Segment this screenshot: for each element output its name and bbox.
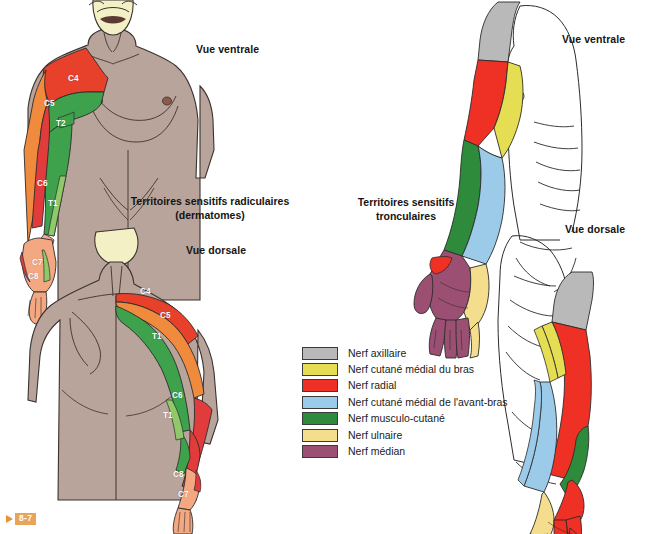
legend-label-nerf-median: Nerf médian [348,446,405,457]
dermatome-code-c8-dorsal: C8 [173,470,183,479]
legend-row: Nerf cutané médial de l'avant-bras [302,394,542,410]
legend-swatch-nerf-axillaire [302,347,338,360]
dermatome-code-t1b-dorsal: T1 [163,411,173,420]
legend-swatch-nerf-cutane-medial-de-lavant-bras [302,396,338,409]
nerve-legend: Nerf axillaire Nerf cutané médial du bra… [302,345,542,460]
legend-label-nerf-cutane-medial-de-lavant-bras: Nerf cutané médial de l'avant-bras [348,397,508,408]
legend-label-nerf-musculo-cutane: Nerf musculo-cutané [348,413,445,424]
right-block-title-line2: tronculaires [336,210,476,224]
legend-row: Nerf ulnaire [302,427,542,443]
legend-row: Nerf radial [302,378,542,394]
view-label-left-dorsal: Vue dorsale [186,244,246,256]
legend-label-nerf-axillaire: Nerf axillaire [348,348,406,359]
legend-row: Nerf médian [302,443,542,459]
legend-swatch-nerf-cutane-medial-du-bras [302,363,338,376]
view-label-left-ventral: Vue ventrale [196,43,259,55]
dermatome-code-c7-dorsal: C7 [178,490,188,499]
dermatome-code-c8-ventral: C8 [28,272,38,281]
legend-swatch-nerf-musculo-cutane [302,412,338,425]
legend-swatch-nerf-ulnaire [302,429,338,442]
left-block-title-line2: (dermatomes) [120,209,300,223]
left-block-title-line1: Territoires sensitifs radiculaires [120,195,300,209]
legend-row: Nerf cutané médial du bras [302,361,542,377]
dermatome-code-c7-ventral: C7 [32,258,42,267]
right-block-title: Territoires sensitifs tronculaires [336,196,476,223]
legend-swatch-nerf-radial [302,379,338,392]
play-triangle-icon [6,515,13,523]
dermatome-code-t1-ventral: T1 [48,199,58,208]
legend-label-nerf-radial: Nerf radial [348,380,396,391]
dermatome-code-t2-ventral: T2 [56,119,66,128]
legend-row: Nerf musculo-cutané [302,411,542,427]
dermatome-code-t1a-dorsal: T1 [152,332,162,341]
view-label-right-ventral: Vue ventrale [562,33,625,45]
legend-label-nerf-ulnaire: Nerf ulnaire [348,430,402,441]
legend-row: Nerf axillaire [302,345,542,361]
right-block-title-line1: Territoires sensitifs [336,196,476,210]
dermatome-code-c5-ventral: C5 [44,99,54,108]
figure-number-label: 8-7 [15,513,36,525]
dermatome-code-c4-dorsal: C4 [140,287,150,296]
dermatome-code-c5-dorsal: C5 [160,311,170,320]
dermatome-code-c6-dorsal: C6 [172,391,182,400]
legend-swatch-nerf-median [302,445,338,458]
figure-canvas: Vue ventrale Territoires sensitifs radic… [0,0,646,534]
left-block-title: Territoires sensitifs radiculaires (derm… [120,195,300,222]
dermatome-code-c4-ventral: C4 [68,74,78,83]
legend-label-nerf-cutane-medial-du-bras: Nerf cutané médial du bras [348,364,474,375]
figure-number-tag: 8-7 [6,513,36,525]
dermatome-code-c6-ventral: C6 [37,179,47,188]
view-label-right-dorsal: Vue dorsale [565,223,625,235]
